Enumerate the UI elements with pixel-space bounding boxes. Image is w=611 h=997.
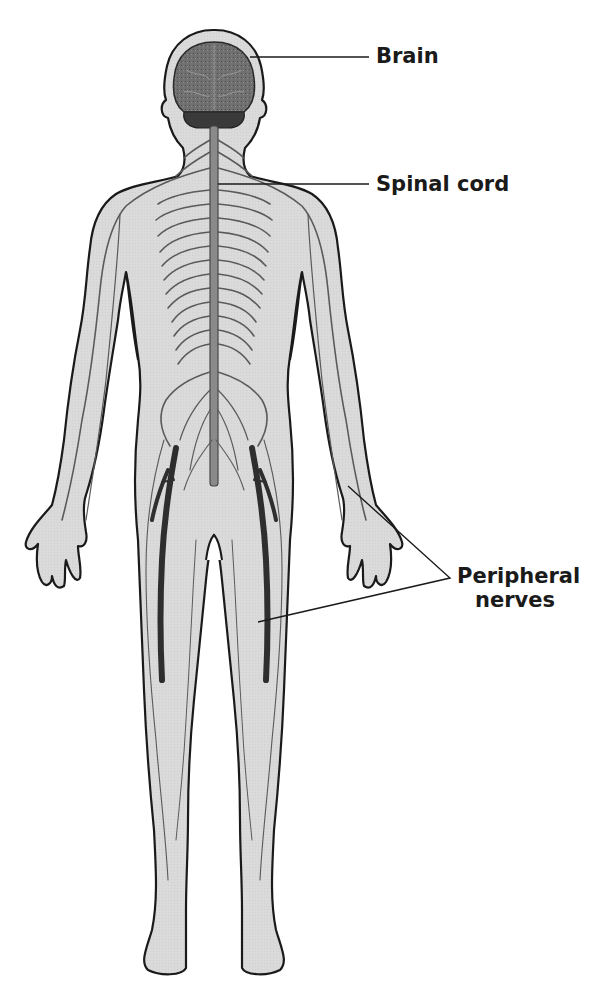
spinal-cord-label: Spinal cord [376,172,509,196]
brain-graphic [173,42,254,128]
peripheral-nerves-label: Peripheral nerves [457,564,580,612]
brain-label: Brain [376,44,439,68]
spinal-cord-graphic [210,126,218,486]
peripheral-nerves-label-line1: Peripheral [457,564,580,588]
peripheral-nerves-label-line2: nerves [457,588,580,612]
nervous-system-figure [0,0,611,997]
